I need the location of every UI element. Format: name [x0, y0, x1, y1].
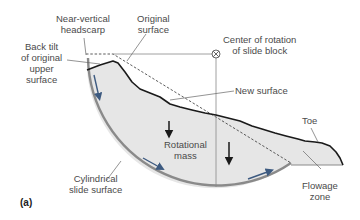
label-center-of-rotation: Center of rotation of slide block — [223, 34, 296, 56]
label-line: zone — [302, 191, 338, 202]
label-line: Cylindrical — [69, 173, 122, 184]
label-line: mass — [164, 150, 207, 161]
label-back-tilt: Back tilt of original upper surface — [21, 41, 62, 85]
label-line: Rotational — [164, 139, 207, 150]
label-line: slide surface — [69, 184, 122, 195]
label-near-vertical-headscarp: Near-vertical headscarp — [56, 13, 110, 35]
label-line: Center of rotation — [223, 34, 296, 45]
panel-label: (a) — [20, 197, 32, 208]
label-toe: Toe — [302, 115, 317, 126]
center-of-rotation-icon — [212, 50, 220, 58]
label-flowage-zone: Flowage zone — [302, 180, 338, 202]
panel-label-text: (a) — [20, 197, 32, 208]
label-original-surface: Original surface — [137, 13, 170, 35]
label-line: New surface — [235, 85, 288, 96]
label-line: surface — [137, 24, 170, 35]
label-line: Back tilt — [21, 41, 62, 52]
label-line: Original — [137, 13, 170, 24]
label-line: of original — [21, 52, 62, 63]
label-line: Toe — [302, 115, 317, 126]
label-line: headscarp — [56, 24, 110, 35]
label-rotational-mass: Rotational mass — [164, 139, 207, 161]
label-line: surface — [21, 74, 62, 85]
label-line: of slide block — [223, 45, 296, 56]
label-new-surface: New surface — [235, 85, 288, 96]
label-cylindrical-slide-surface: Cylindrical slide surface — [69, 173, 122, 195]
label-line: upper — [21, 63, 62, 74]
label-line: Near-vertical — [56, 13, 110, 24]
label-line: Flowage — [302, 180, 338, 191]
